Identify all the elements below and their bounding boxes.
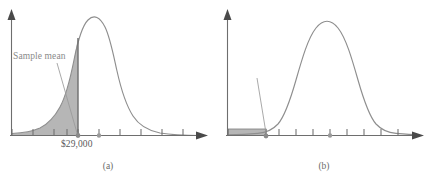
figure-sampling-distributions: Sample mean $29,000 (a) xyxy=(0,0,432,183)
x-axis-arrow-icon-a xyxy=(196,132,208,140)
panel-a-plot xyxy=(0,0,216,183)
axis-value-label-a: $29,000 xyxy=(61,139,93,149)
panel-b: Sample mean $29,000 xyxy=(216,0,432,183)
panel-b-plot xyxy=(216,0,432,183)
sample-mean-annotation-a: Sample mean xyxy=(13,51,66,61)
sample-mean-dot-marker-icon-b xyxy=(264,134,269,139)
panel-a: Sample mean $29,000 xyxy=(0,0,216,183)
y-axis-arrow-icon-b xyxy=(224,9,232,20)
leader-line-icon-b xyxy=(257,78,266,133)
panel-caption-a: (a) xyxy=(0,161,216,171)
distribution-curve-a xyxy=(12,17,200,136)
panel-caption-b: (b) xyxy=(216,161,432,171)
sample-mean-dot-marker-icon-a xyxy=(76,133,81,138)
y-axis-arrow-icon-a xyxy=(8,9,16,20)
population-mean-dot-marker-icon-b xyxy=(328,133,332,137)
x-axis-arrow-icon-b xyxy=(412,132,424,140)
distribution-curve-b xyxy=(228,21,419,135)
population-mean-dot-marker-icon-a xyxy=(97,133,101,137)
